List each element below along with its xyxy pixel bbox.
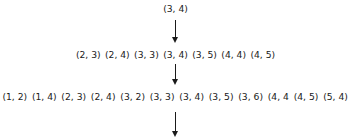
level-2-row: (2, 3)(2, 4)(3, 3)(3, 4)(3, 5)(4, 4)(4, … <box>0 49 351 61</box>
down-arrow-icon <box>174 20 178 44</box>
down-arrow-icon <box>174 64 178 86</box>
node: (4, 5) <box>294 91 319 103</box>
node: (2, 3) <box>61 91 86 103</box>
node: (3, 4) <box>163 3 188 15</box>
node: (3, 3) <box>150 91 175 103</box>
node: (3, 4) <box>179 91 204 103</box>
node: (1, 2) <box>2 91 27 103</box>
node: (2, 4) <box>91 91 116 103</box>
arrow-shaft <box>175 112 176 132</box>
node: (3, 2) <box>120 91 145 103</box>
arrow-head <box>172 131 178 137</box>
arrow-shaft <box>175 64 176 80</box>
level-3-row: (1, 2)(1, 4)(2, 3)(2, 4)(3, 2)(3, 3)(3, … <box>0 91 351 103</box>
level-1-row: (3, 4) <box>0 3 351 15</box>
arrow-head <box>172 79 178 85</box>
arrow-head <box>172 37 178 43</box>
node: (3, 6) <box>238 91 263 103</box>
node: (3, 4) <box>163 49 188 61</box>
node: (1, 4) <box>32 91 57 103</box>
node: (3, 5) <box>192 49 217 61</box>
node: (5, 4) <box>323 91 348 103</box>
node: (4, 4 <box>268 91 289 103</box>
node: (2, 4) <box>105 49 130 61</box>
node: (3, 3) <box>134 49 159 61</box>
node: (4, 4) <box>221 49 246 61</box>
arrow-shaft <box>175 20 176 38</box>
node: (2, 3) <box>76 49 101 61</box>
node: (3, 5) <box>209 91 234 103</box>
down-arrow-icon <box>174 112 178 138</box>
node: (4, 5) <box>250 49 275 61</box>
